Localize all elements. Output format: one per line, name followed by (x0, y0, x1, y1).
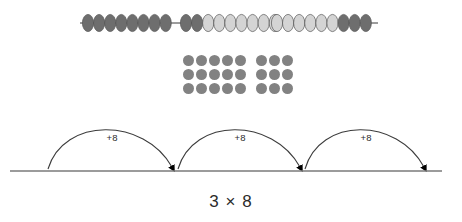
bead-dark (192, 14, 203, 31)
bead-light (247, 14, 258, 31)
array-dot (256, 83, 267, 94)
bead-dark (138, 14, 149, 31)
array-dot (183, 83, 194, 94)
array-dot (183, 55, 194, 66)
array-group-gap (248, 83, 256, 94)
bead-dark (105, 14, 116, 31)
jump-label-1: +8 (107, 132, 118, 143)
bead-dark (127, 14, 138, 31)
array-group-gap (248, 69, 256, 80)
array-dot (269, 69, 280, 80)
bead-dark (82, 14, 93, 31)
bead-light (236, 14, 247, 31)
array-dot (222, 55, 233, 66)
expression-label: 3 × 8 (0, 192, 462, 212)
array-dot (282, 83, 293, 94)
multiplication-diagram: +8+8+8 3 × 8 (0, 0, 462, 222)
array-dot (222, 83, 233, 94)
array-dot (209, 83, 220, 94)
number-line-panel: +8+8+8 (0, 103, 462, 183)
array-dot (256, 69, 267, 80)
bead-group-2 (180, 14, 280, 31)
bead-light (258, 14, 269, 31)
bead-dark (349, 14, 360, 31)
array-dot (282, 69, 293, 80)
array-dot (222, 69, 233, 80)
bead-light (203, 14, 214, 31)
array-dot (269, 55, 280, 66)
dot-row (183, 55, 295, 66)
array-dot (209, 55, 220, 66)
array-dot (209, 69, 220, 80)
bead-light (316, 14, 327, 31)
array-dot (196, 83, 207, 94)
array-dot (235, 69, 246, 80)
bead-dark (338, 14, 349, 31)
array-dot (235, 55, 246, 66)
array-dot (196, 69, 207, 80)
bead-group-3 (271, 14, 371, 31)
bead-dark (160, 14, 171, 31)
bead-light (327, 14, 338, 31)
array-dot (282, 55, 293, 66)
bead-dark (180, 14, 191, 31)
array-dot (183, 69, 194, 80)
bead-light (294, 14, 305, 31)
bead-light (305, 14, 316, 31)
bead-dark (116, 14, 127, 31)
dot-row (183, 69, 295, 80)
array-dot (196, 55, 207, 66)
array-dot (256, 55, 267, 66)
bead-dark (360, 14, 371, 31)
jump-label-2: +8 (235, 132, 246, 143)
bead-light (271, 14, 282, 31)
array-dot (269, 83, 280, 94)
dot-array (183, 55, 295, 94)
array-dot (235, 83, 246, 94)
array-group-gap (248, 55, 256, 66)
jump-label-3: +8 (361, 132, 372, 143)
bead-dark (149, 14, 160, 31)
bead-light (214, 14, 225, 31)
dot-row (183, 83, 295, 94)
bead-light (225, 14, 236, 31)
bead-group-container (82, 14, 371, 31)
bead-dark (94, 14, 105, 31)
bead-group-1 (82, 14, 171, 31)
bead-string (0, 0, 462, 45)
bead-light (283, 14, 294, 31)
